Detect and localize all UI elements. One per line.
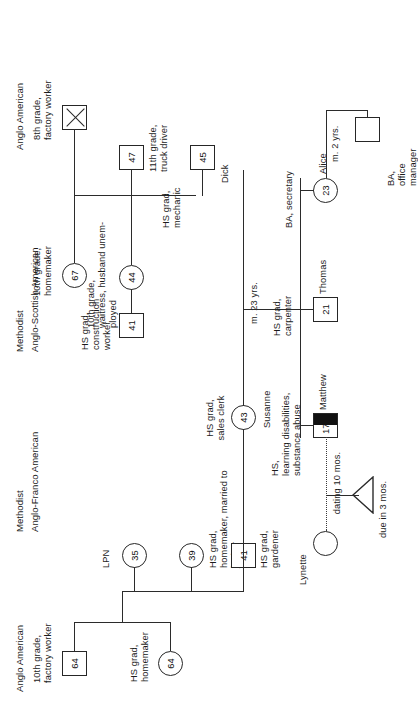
relationship-label-due: due in 3 mos. [378, 438, 389, 538]
person-age-44: 44 [120, 266, 143, 289]
person-desc-susanne: HS grad, sales clerk [205, 363, 227, 473]
person-uncle-41-construction[interactable]: 41 [119, 313, 144, 338]
sibship-branch-uncle-41-construction [131, 289, 132, 313]
person-age-21-thomas: 21 [314, 298, 337, 321]
person-age-45-dick: 45 [191, 146, 214, 169]
person-name-matthew: Matthew [318, 330, 329, 410]
header-methodist-maternal: Methodist [14, 310, 25, 352]
person-age-47: 47 [120, 146, 143, 169]
person-age-43-susanne: 43 [232, 406, 255, 429]
sibship-branch-aunt-35 [134, 567, 135, 592]
person-age-39: 39 [180, 544, 203, 567]
person-age-35: 35 [123, 544, 146, 567]
person-desc-matthew: HS, learning disabilities, substance abu… [270, 316, 302, 476]
header-methodist-paternal: Methodist [14, 490, 25, 532]
sibship-branch-uncle-47 [131, 169, 132, 196]
person-age-17-matthew: 17 [314, 414, 337, 437]
person-desc-alice: BA, secretary [284, 128, 295, 228]
person-desc-uncle-41-gardener: HS grad, gardener [259, 468, 281, 568]
person-desc-maternal-grandfather: 8th grade, factory worker [32, 30, 54, 140]
person-thomas[interactable]: 21 [313, 297, 338, 322]
relationship-label-m2: m. 2 yrs. [330, 82, 341, 162]
relationship-label-m23: m. 23 yrs. [249, 258, 260, 348]
person-susanne[interactable]: 43 [231, 405, 256, 430]
person-desc-alice-husband: BA, office manager [386, 96, 418, 186]
marriage-line-dick-susanne [243, 170, 244, 406]
person-desc-maternal-grandmother: 10th grade, homemaker [32, 186, 54, 296]
sibship-spine-paternal [122, 591, 244, 592]
relationship-label-dating: dating 10 mos. [332, 438, 343, 528]
person-dick[interactable]: 45 [190, 145, 215, 170]
person-desc-paternal-grandmother: HS grad, homemaker [129, 572, 151, 682]
person-matthew[interactable]: 17 [313, 413, 338, 438]
person-name-dick: Dick [220, 113, 231, 183]
person-alice-husband[interactable] [355, 117, 380, 142]
sibship-branch-aunt-44 [131, 195, 132, 265]
person-age-41-construction: 41 [120, 314, 143, 337]
person-maternal-grandfather-deceased[interactable] [62, 105, 87, 130]
person-uncle-47[interactable]: 47 [119, 145, 144, 170]
deceased-x-icon [63, 106, 86, 129]
person-name-thomas: Thomas [318, 214, 329, 294]
person-desc-paternal-grandfather: 10th grade, factory worker [32, 573, 54, 683]
marriage-stub-alice-husband [367, 110, 368, 117]
sibship-branch-aunt-39 [191, 567, 192, 592]
person-desc-thomas: HS grad, carpenter [272, 236, 294, 336]
header-anglo-franco-american: Anglo-Franco American [29, 432, 40, 532]
person-age-64-paternal-grandmother: 64 [159, 652, 182, 675]
person-desc-aunt-35: LPN [101, 478, 112, 568]
sibship-branch-dick [202, 169, 203, 196]
person-desc-dick: HS grad, mechanic [161, 118, 183, 228]
triangle-icon [352, 476, 374, 514]
marriage-stub-paternal-grandmother [170, 622, 171, 651]
person-desc-uncle-41-construction: HS grad, construction worker [80, 240, 112, 350]
unborn-child-triangle[interactable] [352, 476, 374, 514]
sibship-branch-alice [300, 190, 314, 191]
header-anglo-american-maternal: Anglo American [14, 83, 25, 150]
sibship-branch-susanne [243, 429, 244, 592]
person-aunt-44[interactable]: 44 [119, 265, 144, 290]
person-aunt-35[interactable]: 35 [122, 543, 147, 568]
sibship-drop-paternal [122, 591, 123, 623]
marriage-stub-paternal-grandfather [74, 622, 75, 651]
person-paternal-grandfather[interactable]: 64 [62, 651, 87, 676]
header-anglo-american-paternal: Anglo American [14, 625, 25, 692]
person-lynette[interactable] [313, 531, 338, 556]
marriage-stub-alice [326, 110, 327, 178]
person-alice[interactable]: 23 [313, 178, 338, 203]
person-name-lynette: Lynette [298, 515, 309, 585]
person-aunt-39[interactable]: 39 [179, 543, 204, 568]
marriage-line-maternal-grandparents [74, 129, 75, 263]
person-paternal-grandmother[interactable]: 64 [158, 651, 183, 676]
person-age-23-alice: 23 [314, 179, 337, 202]
sibship-branch-thomas [300, 309, 314, 310]
person-age-64-paternal-grandfather: 64 [63, 652, 86, 675]
dating-relationship-line [326, 437, 327, 531]
